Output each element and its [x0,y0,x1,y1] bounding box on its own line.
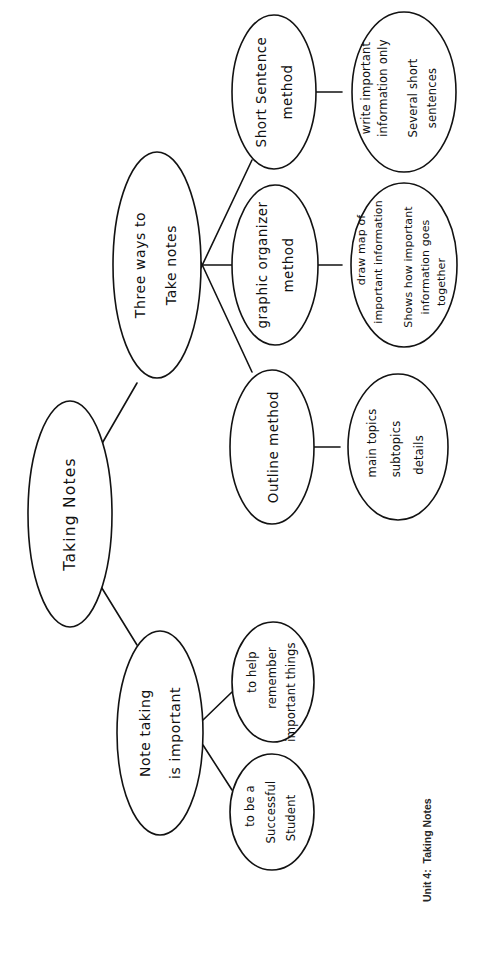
connector-important-to-help-remember [203,692,232,720]
connector-center-to-three-ways [100,383,137,447]
node-help-remember[interactable]: to help remember important things [232,622,314,742]
node-graphic-organizer-detail-line-4: information goes [419,219,432,314]
node-note-taking-important-ellipse [117,631,203,835]
node-outline[interactable]: Outline method [230,370,314,524]
node-short-sentence-label-line-2: method [279,64,295,119]
node-help-remember-line-1: to help [245,651,259,692]
node-short-sentence-label-line-1: Short Sentence [253,37,269,148]
node-note-taking-important-label-line-2: is important [167,687,183,779]
node-note-taking-important-label-line-1: Note taking [137,689,153,777]
concept-map-canvas: Taking Notes Three ways to Take notes Sh… [0,0,479,968]
node-short-sentence-detail-line-4: sentences [425,68,439,128]
node-help-remember-line-2: remember [265,647,279,709]
node-graphic-organizer[interactable]: graphic organizer method [232,185,318,345]
node-outline-detail-line-2: subtopics [389,421,403,478]
node-successful-student-line-1: to be a [243,785,257,827]
node-three-ways-label-line-1: Three ways to [132,212,148,319]
node-successful-student[interactable]: to be a Successful Student [230,754,314,870]
node-short-sentence-ellipse [232,15,316,169]
node-graphic-organizer-label-line-2: method [280,237,296,292]
node-three-ways-ellipse [113,152,201,378]
node-short-sentence-detail-line-3: Several short [406,58,420,137]
node-graphic-organizer-detail-line-3: Shows how important [402,206,415,328]
concept-map-svg: Taking Notes Three ways to Take notes Sh… [0,0,479,968]
node-help-remember-line-3: important things [284,642,298,741]
node-graphic-organizer-detail-line-1: draw map of [355,214,368,285]
node-graphic-organizer-detail-line-2: important information [372,200,385,323]
node-three-ways[interactable]: Three ways to Take notes [113,152,201,378]
node-short-sentence-detail-line-1: write important [359,42,373,135]
node-outline-label-line-1: Outline method [265,391,281,503]
node-successful-student-line-3: Student [284,794,298,841]
node-outline-detail[interactable]: main topics subtopics details [348,374,448,520]
node-graphic-organizer-detail-line-5: together [435,258,448,307]
node-graphic-organizer-ellipse [232,185,318,345]
node-graphic-organizer-detail[interactable]: draw map of important information Shows … [351,183,457,347]
figure-caption: Unit 4: Taking Notes [421,798,433,902]
node-short-sentence-detail-line-2: information only [376,39,390,137]
node-successful-student-line-2: Successful [264,781,278,844]
node-graphic-organizer-label-line-1: graphic organizer [254,201,270,328]
node-center-label: Taking Notes [61,457,79,571]
node-outline-detail-line-3: details [412,435,426,475]
node-outline-detail-line-1: main topics [365,409,379,478]
connector-center-to-note-taking-important [100,585,137,645]
node-note-taking-important[interactable]: Note taking is important [117,631,203,835]
connector-important-to-successful-student [203,745,232,790]
node-center[interactable]: Taking Notes [28,401,112,627]
node-short-sentence-detail[interactable]: write important information only Several… [352,12,456,172]
node-three-ways-label-line-2: Take notes [163,225,179,306]
node-short-sentence[interactable]: Short Sentence method [232,15,316,169]
